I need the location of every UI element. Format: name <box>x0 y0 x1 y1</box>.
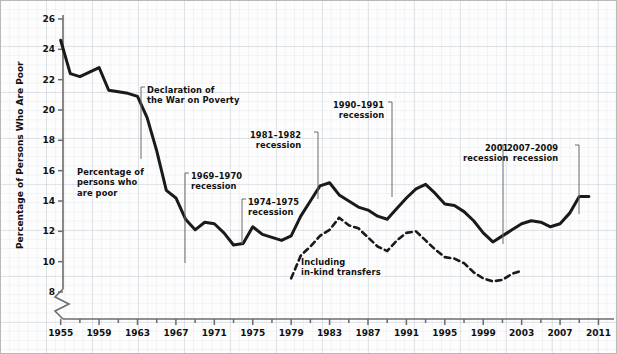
y-tick-label-24: 24 <box>21 44 55 54</box>
annotation-poor-series-label: Percentage of persons who are poor <box>77 167 144 198</box>
y-tick-label-8: 8 <box>21 287 55 297</box>
annotation-line: Declaration of <box>147 85 239 95</box>
y-tick-label-26: 26 <box>21 14 55 24</box>
y-tick-label-12: 12 <box>21 226 55 236</box>
annotation-line: 1981–1982 <box>250 130 301 140</box>
y-tick-label-20: 20 <box>21 105 55 115</box>
annotation-recession-1990-1991: 1990–1991 recession <box>333 100 384 121</box>
annotation-recession-2007-2009: 2007–2009 recession <box>507 143 558 164</box>
annotation-line: recession <box>507 153 558 163</box>
annotation-line: Percentage of <box>77 167 144 177</box>
y-tick-label-18: 18 <box>21 135 55 145</box>
y-tick-label-16: 16 <box>21 166 55 176</box>
annotation-line: 1969–1970 <box>191 171 242 181</box>
annotation-line: in-kind transfers <box>301 267 381 277</box>
annotation-line: are poor <box>77 188 144 198</box>
annotation-line: recession <box>463 153 509 163</box>
y-tick-label-10: 10 <box>21 257 55 267</box>
annotation-in-kind-transfers: Including in-kind transfers <box>301 257 381 278</box>
poverty-rate-chart: Percentage of Persons Who Are Poor 81012… <box>0 0 617 354</box>
annotation-line: recession <box>250 140 301 150</box>
annotation-line: recession <box>191 181 242 191</box>
annotation-recession-2001: 2001 recession <box>463 143 509 164</box>
annotation-line: the War on Poverty <box>147 95 239 105</box>
annotation-line: 2007–2009 <box>507 143 558 153</box>
annotation-line: 2001 <box>463 143 509 153</box>
annotation-recession-1974-1975: 1974–1975 recession <box>248 197 299 218</box>
annotation-recession-1981-1982: 1981–1982 recession <box>250 130 301 151</box>
annotation-line: 1974–1975 <box>248 197 299 207</box>
x-tick-label-2011: 2011 <box>574 328 617 338</box>
annotation-recession-1969-1970: 1969–1970 recession <box>191 171 242 192</box>
annotation-line: Including <box>301 257 381 267</box>
annotation-war-on-poverty: Declaration of the War on Poverty <box>147 85 239 106</box>
annotation-line: recession <box>333 110 384 120</box>
annotation-line: recession <box>248 207 299 217</box>
annotation-line: 1990–1991 <box>333 100 384 110</box>
y-tick-label-14: 14 <box>21 196 55 206</box>
annotation-line: persons who <box>77 177 144 187</box>
y-tick-label-22: 22 <box>21 75 55 85</box>
